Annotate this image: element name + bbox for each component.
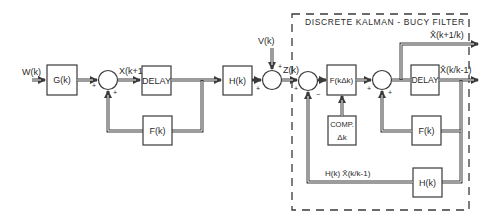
gain-block: F(kΔk) xyxy=(327,65,356,95)
summing-junction-4 xyxy=(373,71,392,90)
svg-text:F(k): F(k) xyxy=(419,126,435,136)
svg-text:G(k): G(k) xyxy=(53,75,71,85)
svg-text:F(k): F(k) xyxy=(150,126,166,136)
filter-title: DISCRETE KALMAN - BUCY FILTER xyxy=(305,17,465,27)
sum4-sign-bottom: + xyxy=(388,89,392,96)
sum2-sign-top: + xyxy=(278,63,282,70)
sum2-sign-left: + xyxy=(256,85,260,92)
signal-filter-branch xyxy=(441,80,461,182)
filter-h-block: H(k) xyxy=(413,168,442,197)
sum3-sign-left: + xyxy=(294,85,298,92)
plant-h-block: H(k) xyxy=(223,66,252,95)
sum1-sign-bottom: + xyxy=(113,89,117,96)
filter-delay-block: DELAY xyxy=(411,65,439,95)
summing-junction-1 xyxy=(99,71,118,90)
svg-text:H(k): H(k) xyxy=(419,178,436,188)
svg-text:COMP.: COMP. xyxy=(330,120,354,129)
measurement-z-label: Z(k) xyxy=(283,65,299,75)
output-predicted-label: X̂(k+1/k) xyxy=(430,30,464,40)
sum4-sign-left: + xyxy=(367,85,371,92)
sum3-sign-bottom: − xyxy=(316,91,320,98)
plant-delay-block: DELAY xyxy=(142,66,171,95)
signal-filter-f-feedback xyxy=(382,91,412,131)
summing-junction-3 xyxy=(299,72,318,91)
sum1-sign-left: + xyxy=(92,82,96,89)
svg-text:Δk: Δk xyxy=(337,133,347,142)
output-current-label: X̂(k/k-1) xyxy=(440,65,472,75)
input-w-label: W(k) xyxy=(22,67,41,77)
kalman-bucy-block-diagram: DISCRETE KALMAN - BUCY FILTER W(k) G(k) … xyxy=(0,0,490,224)
comp-delta-k-block: COMP. Δk xyxy=(328,116,356,145)
svg-text:DELAY: DELAY xyxy=(142,76,171,86)
svg-text:F(kΔk): F(kΔk) xyxy=(330,76,354,85)
svg-text:H(k): H(k) xyxy=(229,76,246,86)
svg-text:DELAY: DELAY xyxy=(411,75,439,85)
plant-f-block: F(k) xyxy=(143,116,172,145)
feedback-label: H(k) X̂(k/k-1) xyxy=(325,169,371,178)
g-block: G(k) xyxy=(47,65,77,95)
filter-f-block: F(k) xyxy=(412,116,441,145)
summing-junction-2 xyxy=(263,71,282,90)
noise-v-label: V(k) xyxy=(258,36,275,46)
